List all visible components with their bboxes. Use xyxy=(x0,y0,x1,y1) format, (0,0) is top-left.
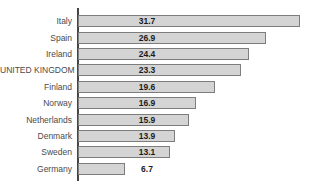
value-label: 26.9 xyxy=(123,32,171,44)
value-label: 13.9 xyxy=(123,130,171,142)
bar-row: UNITED KINGDOM 23.3 xyxy=(0,62,309,78)
bar-area: 19.6 xyxy=(78,81,309,93)
category-label: Finland xyxy=(0,82,78,92)
value-label: 31.7 xyxy=(123,15,171,27)
bar-row: Finland 19.6 xyxy=(0,79,309,95)
bar xyxy=(78,32,266,44)
value-label: 24.4 xyxy=(123,48,171,60)
bar-area: 13.1 xyxy=(78,146,309,158)
value-label: 23.3 xyxy=(123,64,171,76)
value-label: 19.6 xyxy=(123,81,171,93)
category-label: UNITED KINGDOM xyxy=(0,65,78,75)
bar-row: Ireland 24.4 xyxy=(0,46,309,62)
bar-area: 13.9 xyxy=(78,130,309,142)
category-label: Spain xyxy=(0,33,78,43)
category-label: Netherlands xyxy=(0,115,78,125)
bar-chart: Italy 31.7 Spain 26.9 Ireland 24.4 UNITE… xyxy=(0,0,309,188)
category-label: Germany xyxy=(0,164,78,174)
bar-row: Italy 31.7 xyxy=(0,13,309,29)
value-label: 16.9 xyxy=(123,97,171,109)
bar-area: 16.9 xyxy=(78,97,309,109)
bar-row: Netherlands 15.9 xyxy=(0,111,309,127)
value-label: 13.1 xyxy=(123,146,171,158)
category-label: Ireland xyxy=(0,49,78,59)
bar xyxy=(78,163,125,175)
bar-area: 26.9 xyxy=(78,32,309,44)
value-label: 6.7 xyxy=(123,163,171,175)
category-label: Italy xyxy=(0,16,78,26)
bar xyxy=(78,15,300,27)
bar-row: Spain 26.9 xyxy=(0,29,309,45)
bar-rows: Italy 31.7 Spain 26.9 Ireland 24.4 UNITE… xyxy=(0,13,309,177)
bar-area: 24.4 xyxy=(78,48,309,60)
bar-area: 6.7 xyxy=(78,163,309,175)
bar-area: 31.7 xyxy=(78,15,309,27)
bar-row: Norway 16.9 xyxy=(0,95,309,111)
bar-row: Germany 6.7 xyxy=(0,161,309,177)
bar-row: Sweden 13.1 xyxy=(0,144,309,160)
bar-area: 23.3 xyxy=(78,64,309,76)
bar-row: Denmark 13.9 xyxy=(0,128,309,144)
category-label: Norway xyxy=(0,98,78,108)
category-label: Sweden xyxy=(0,147,78,157)
bar-area: 15.9 xyxy=(78,114,309,126)
value-label: 15.9 xyxy=(123,114,171,126)
category-label: Denmark xyxy=(0,131,78,141)
